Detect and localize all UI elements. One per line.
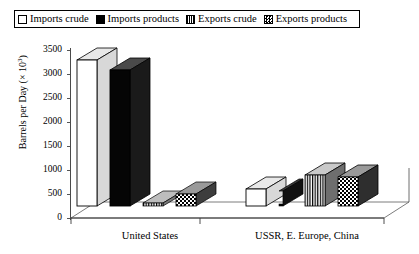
x-tick-label-ussr-e-europe-china: USSR, E. Europe, China (232, 230, 382, 241)
bar-series-group (0, 0, 419, 254)
bar-united-states-exports-products (176, 182, 216, 206)
bar-ussr-imports-crude (246, 177, 286, 206)
bar-united-states-imports-products (110, 58, 150, 206)
x-tick-label-united-states: United States (100, 230, 200, 241)
chart-root: Imports crude Imports products Exports c… (0, 0, 419, 254)
